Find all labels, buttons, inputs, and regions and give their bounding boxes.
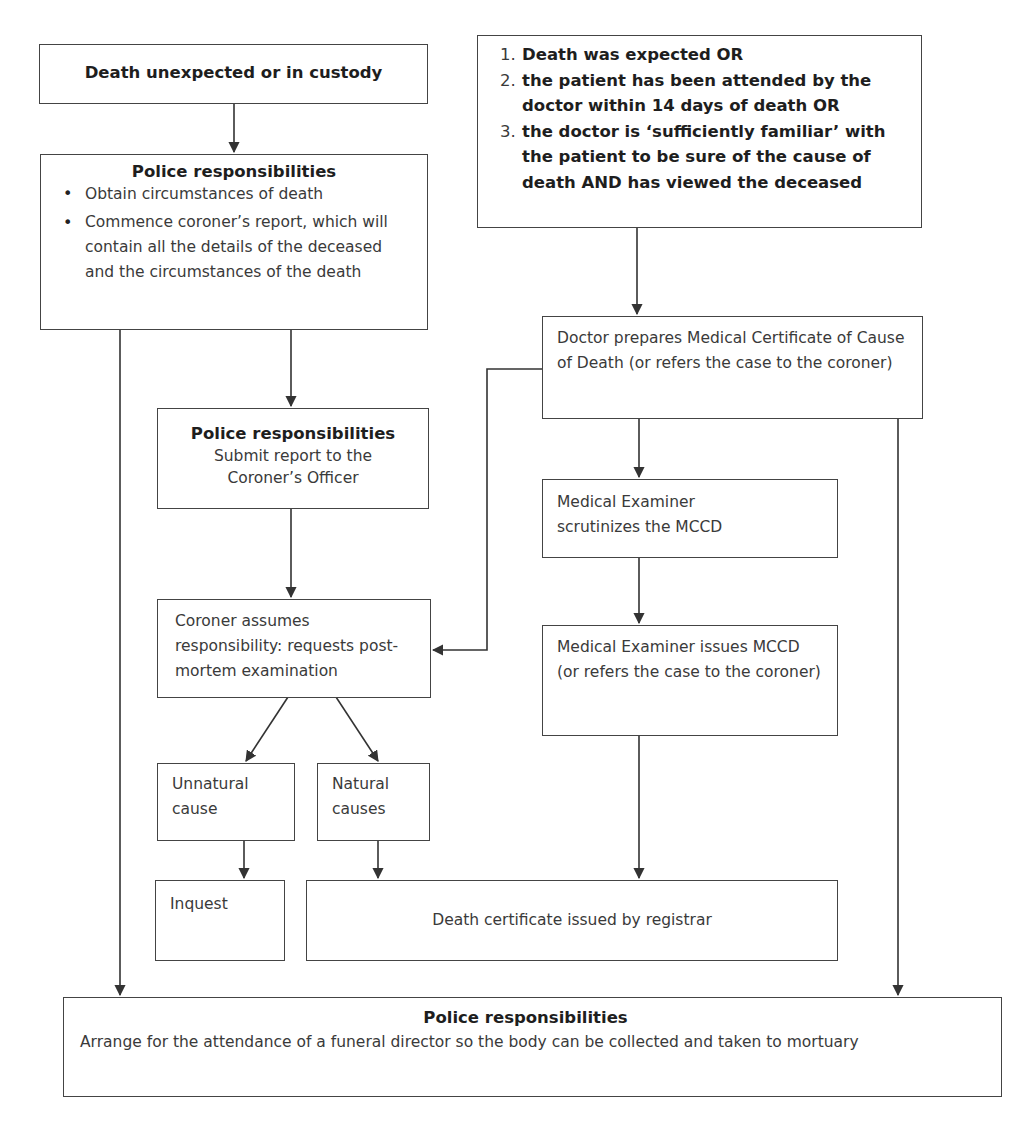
node-inquest: Inquest [155,880,285,961]
node-police-initial-bullets: Obtain circumstances of death Commence c… [41,183,413,285]
node-police-initial: Police responsibilities Obtain circumsta… [40,154,428,330]
node-police-submit-text: Submit report to the Coroner’s Officer [158,445,428,489]
edge-coroner-to-unnatural [246,697,288,761]
criteria-item: 2.the patient has been attended by the d… [500,68,901,119]
node-police-final: Police responsibilities Arrange for the … [63,997,1002,1097]
criteria-item: 1.Death was expected OR [500,42,901,68]
node-police-submit: Police responsibilities Submit report to… [157,408,429,509]
node-coroner-assumes-label: Coroner assumes responsibility: requests… [175,612,398,680]
node-police-initial-title: Police responsibilities [41,161,413,183]
node-expected-criteria: 1.Death was expected OR 2.the patient ha… [477,35,922,228]
node-police-submit-title: Police responsibilities [158,423,428,445]
node-unnatural-cause: Unnatural cause [157,763,295,841]
node-unnatural-cause-label: Unnatural cause [172,775,249,818]
node-coroner-assumes: Coroner assumes responsibility: requests… [157,599,431,698]
node-police-final-text: Arrange for the attendance of a funeral … [80,1030,971,1054]
node-death-certificate: Death certificate issued by registrar [306,880,838,961]
node-natural-causes: Natural causes [317,763,430,841]
node-me-scrutinizes: Medical Examiner scrutinizes the MCCD [542,479,838,558]
bullet-item: Commence coroner’s report, which will co… [45,210,413,285]
node-death-unexpected: Death unexpected or in custody [39,44,428,104]
node-me-issues: Medical Examiner issues MCCD (or refers … [542,625,838,736]
node-doctor-mccd: Doctor prepares Medical Certificate of C… [542,316,923,419]
node-inquest-label: Inquest [170,895,228,913]
criteria-num: 3. [500,119,516,145]
node-death-certificate-label: Death certificate issued by registrar [432,911,712,929]
criteria-num: 1. [500,42,516,68]
criteria-item: 3.the doctor is ‘sufficiently familiar’ … [500,119,901,196]
criteria-num: 2. [500,68,516,94]
criteria-text: the doctor is ‘sufficiently familiar’ wi… [522,122,885,192]
criteria-text: the patient has been attended by the doc… [522,71,871,116]
bullet-item: Obtain circumstances of death [45,183,413,205]
node-me-scrutinizes-label: Medical Examiner scrutinizes the MCCD [557,493,722,536]
node-doctor-mccd-label: Doctor prepares Medical Certificate of C… [557,329,905,372]
node-natural-causes-label: Natural causes [332,775,389,818]
edge-coroner-to-natural [336,697,378,761]
node-death-unexpected-label: Death unexpected or in custody [85,63,383,82]
node-police-final-title: Police responsibilities [80,1006,971,1030]
criteria-text: Death was expected OR [522,45,743,64]
edge-doctor-to-coroner [433,369,542,650]
criteria-list: 1.Death was expected OR 2.the patient ha… [500,42,901,195]
node-me-issues-label: Medical Examiner issues MCCD (or refers … [557,638,821,681]
